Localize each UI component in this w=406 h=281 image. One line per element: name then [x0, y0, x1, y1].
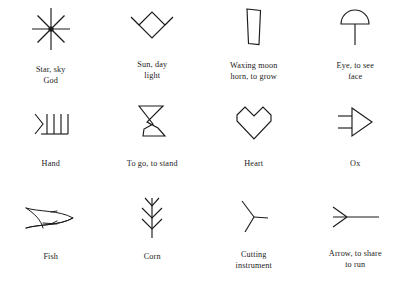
symbol-cell-star: Star, sky God — [0, 0, 102, 92]
caption-line-1: Heart — [244, 159, 263, 168]
arrow-icon — [327, 203, 383, 231]
glyph-container — [203, 187, 305, 237]
corn-stalk-icon — [135, 195, 169, 241]
symbol-cell-corn: Corn — [102, 187, 204, 281]
symbol-caption: Eye, to see face — [337, 49, 374, 93]
caption-line-1: Hand — [42, 159, 60, 168]
symbol-caption: Corn — [144, 240, 161, 273]
symbol-cell-eye: Eye, to see face — [305, 0, 406, 92]
symbol-caption: Cutting instrument — [235, 238, 272, 281]
caption-line-2: face — [337, 71, 374, 82]
glyph-container — [203, 0, 305, 48]
tall-quadrilateral-moon-icon — [239, 6, 269, 48]
caption-line-1: Sun, day — [137, 60, 167, 69]
caption-line-1: Cutting — [241, 250, 267, 259]
caption-line-1: Ox — [350, 159, 360, 168]
caption-line-1: Corn — [144, 252, 161, 261]
caption-line-1: Star, sky — [36, 65, 66, 74]
caption-line-1: Arrow, to share — [329, 249, 382, 258]
diamond-sun-icon — [126, 7, 178, 47]
boot-leg-icon — [131, 102, 173, 144]
glyph-container — [102, 187, 204, 239]
glyph-container — [305, 0, 406, 48]
glyph-container — [0, 187, 102, 239]
symbol-caption: Star, sky God — [36, 53, 66, 97]
symbol-caption: Sun, day light — [137, 48, 167, 92]
glyph-container — [305, 187, 406, 236]
caption-line-1: Waxing moon — [230, 61, 278, 70]
caption-line-1: Fish — [43, 252, 58, 261]
symbol-caption: Heart — [244, 147, 263, 180]
symbol-caption: To go, to stand — [127, 147, 178, 180]
symbol-caption: Waxing moon horn, to grow — [230, 49, 278, 93]
angular-heart-icon — [233, 103, 275, 143]
three-pronged-blade-icon — [234, 197, 274, 237]
glyph-container — [0, 92, 102, 146]
symbol-caption: Arrow, to share to run — [329, 237, 382, 281]
symbol-cell-sun: Sun, day light — [102, 0, 204, 92]
symbol-cell-waxing-moon: Waxing moon horn, to grow — [203, 0, 305, 92]
triangle-horns-ox-icon — [333, 105, 377, 141]
caption-line-1: Eye, to see — [337, 61, 374, 70]
eight-ray-star-icon — [28, 6, 74, 52]
glyph-container — [305, 92, 406, 146]
symbol-caption: Hand — [42, 147, 60, 180]
pictograph-chart: Star, sky God Sun, day light — [0, 0, 406, 281]
caption-line-1: To go, to stand — [127, 159, 178, 168]
caption-line-2: light — [137, 70, 167, 81]
glyph-container — [102, 92, 204, 146]
symbol-grid: Star, sky God Sun, day light — [0, 0, 406, 281]
symbol-caption: Fish — [43, 240, 58, 273]
glyph-container — [102, 0, 204, 47]
glyph-container — [203, 92, 305, 146]
caption-line-2: to run — [329, 259, 382, 270]
symbol-cell-fish: Fish — [0, 187, 102, 281]
fish-icon — [21, 202, 81, 234]
symbol-cell-arrow: Arrow, to share to run — [305, 187, 406, 281]
four-fingers-hand-icon — [28, 105, 74, 141]
symbol-cell-cutting-instrument: Cutting instrument — [203, 187, 305, 281]
symbol-cell-hand: Hand — [0, 92, 102, 187]
glyph-container — [0, 0, 102, 52]
symbol-caption: Ox — [350, 147, 360, 180]
symbol-cell-to-go: To go, to stand — [102, 92, 204, 187]
caption-line-2: instrument — [235, 260, 272, 271]
caption-line-2: God — [36, 75, 66, 86]
dome-with-stem-eye-icon — [336, 6, 374, 48]
symbol-cell-heart: Heart — [203, 92, 305, 187]
symbol-cell-ox: Ox — [305, 92, 406, 187]
caption-line-2: horn, to grow — [230, 71, 278, 82]
